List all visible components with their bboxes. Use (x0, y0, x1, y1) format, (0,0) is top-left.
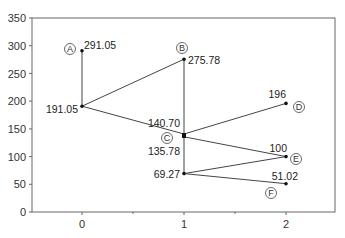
svg-text:B: B (179, 43, 185, 53)
value-label-f: 51.02 (272, 170, 298, 182)
y-tick-label: 300 (8, 40, 26, 52)
value-label-e: 100 (269, 142, 287, 154)
node-e: E (291, 154, 302, 165)
y-tick-label: 50 (14, 178, 26, 190)
svg-text:A: A (67, 44, 73, 54)
tree-lines (82, 51, 286, 184)
svg-text:F: F (268, 188, 274, 198)
x-tick-label: 1 (181, 218, 187, 230)
value-label-191: 191.05 (46, 103, 78, 115)
node-a: A (65, 44, 76, 55)
node-f: F (266, 188, 277, 199)
y-tick-label: 250 (8, 68, 26, 80)
y-tick-label: 150 (8, 123, 26, 135)
value-label-a: 291.05 (84, 39, 116, 51)
y-tick-label: 100 (8, 151, 26, 163)
y-tick-label: 350 (8, 12, 26, 24)
y-tick-label: 0 (20, 206, 26, 218)
value-label-b: 275.78 (188, 54, 220, 66)
svg-text:D: D (296, 102, 303, 112)
svg-text:E: E (293, 154, 299, 164)
x-tick-label: 2 (283, 218, 289, 230)
chart: 0 50 100 150 200 250 300 350 0 1 2 (0, 0, 345, 238)
x-tick-label: 0 (79, 218, 85, 230)
x-axis: 0 1 2 (79, 212, 289, 230)
node-c: C (162, 133, 173, 144)
value-label-d: 196 (268, 88, 286, 100)
y-tick-label: 200 (8, 95, 26, 107)
y-axis: 0 50 100 150 200 250 300 350 (8, 12, 32, 218)
svg-text:C: C (164, 133, 171, 143)
node-d: D (294, 102, 305, 113)
value-label-c: 135.78 (148, 145, 180, 157)
value-label-69: 69.27 (154, 168, 180, 180)
value-label-140: 140.70 (148, 117, 180, 129)
node-b: B (177, 43, 188, 54)
